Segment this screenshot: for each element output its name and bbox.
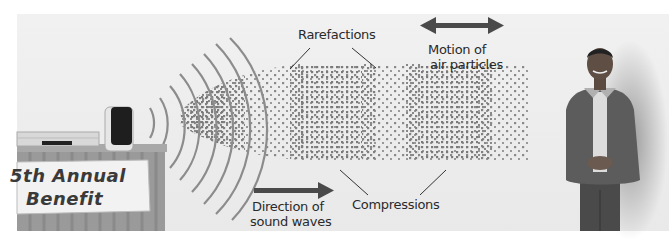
motion-label-line2: air particles [430, 57, 503, 72]
direction-label-line1: Direction of [252, 199, 324, 214]
motion-label-line1: Motion of [428, 42, 486, 57]
rarefactions-label: Rarefactions [298, 27, 376, 42]
motion-double-arrow [420, 17, 504, 34]
direction-arrow [254, 182, 334, 199]
banner-line2: Benefit [26, 188, 103, 209]
speaker [105, 107, 133, 151]
dvd-player [17, 132, 99, 146]
direction-label-line2: sound waves [250, 214, 331, 229]
air-particles [170, 60, 540, 170]
banner-line1: 5th Annual [10, 165, 126, 186]
compressions-label: Compressions [352, 197, 440, 212]
